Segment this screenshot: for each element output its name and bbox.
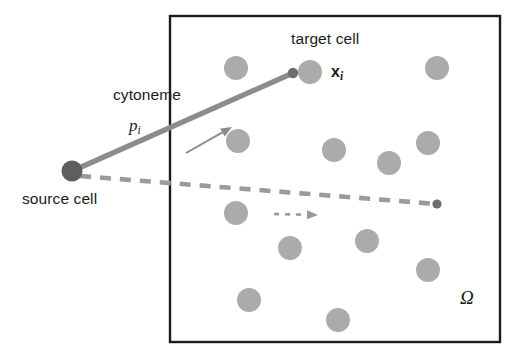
source-cell-marker xyxy=(62,161,83,182)
cell-circle xyxy=(416,131,440,155)
x-i-subscript: i xyxy=(340,70,343,82)
dashed-trajectory xyxy=(80,176,437,204)
source-cell-group xyxy=(62,161,83,182)
cytoneme-label: cytoneme xyxy=(113,87,181,103)
dashed-direction-arrow-head xyxy=(307,210,318,219)
cytoneme-group xyxy=(79,68,298,168)
cytoneme-transport-figure: target cell cytoneme pi xi source cell Ω xyxy=(0,0,525,363)
cell-circle xyxy=(377,151,401,175)
cell-circle xyxy=(425,56,449,80)
cell-circle xyxy=(237,288,261,312)
cytoneme-segment xyxy=(79,73,293,168)
cell-population xyxy=(224,56,449,332)
cell-circle xyxy=(226,129,250,153)
x-i-label: xi xyxy=(331,64,343,83)
source-cell-label: source cell xyxy=(22,191,97,207)
cell-circle xyxy=(322,138,346,162)
cell-circle xyxy=(278,236,302,260)
target-cell-circle xyxy=(298,60,322,84)
x-i-base: x xyxy=(331,63,340,80)
target-cell-label: target cell xyxy=(291,31,359,47)
dashed-direction-arrow-shaft xyxy=(274,214,307,215)
p-i-base: p xyxy=(129,116,138,135)
omega-domain-label: Ω xyxy=(460,288,474,307)
p-i-label: pi xyxy=(129,117,141,137)
cell-circle xyxy=(416,258,440,282)
dashed-trajectory-group xyxy=(80,176,442,219)
cell-circle xyxy=(224,56,248,80)
cytoneme-direction-arrow-shaft xyxy=(186,132,222,153)
p-i-subscript: i xyxy=(138,124,141,136)
cell-circle xyxy=(355,229,379,253)
cell-circle xyxy=(224,201,248,225)
cell-circle xyxy=(326,308,350,332)
cytoneme-tip-marker xyxy=(288,68,298,78)
diagram-canvas xyxy=(0,0,525,363)
dashed-trajectory-endpoint xyxy=(432,199,441,208)
